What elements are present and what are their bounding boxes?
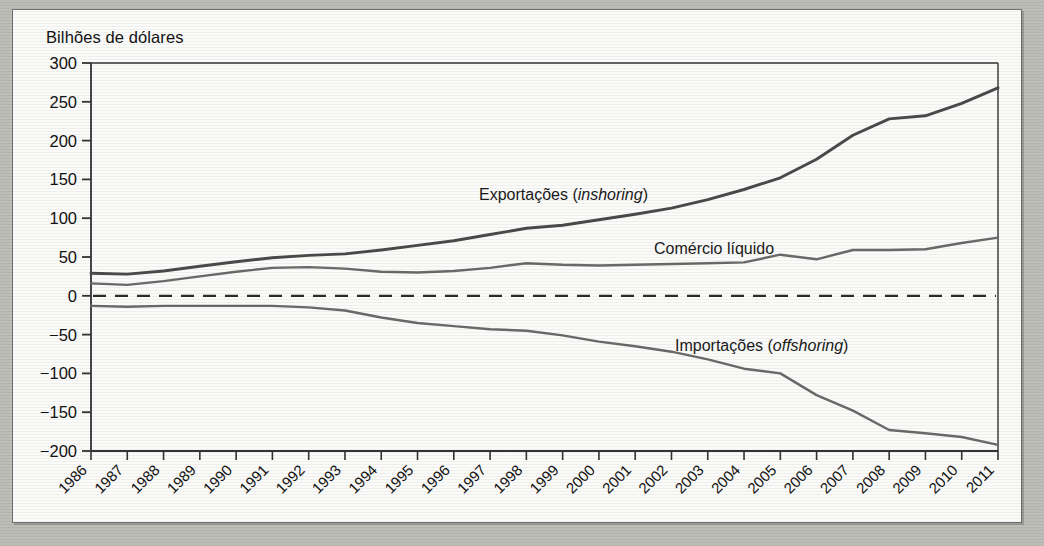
x-tick-label: 2001 bbox=[599, 461, 635, 497]
x-tick-label: 1996 bbox=[417, 461, 453, 497]
y-tick-label: 100 bbox=[49, 209, 77, 227]
x-tick-label: 1988 bbox=[127, 461, 163, 497]
x-tick-label: 2004 bbox=[708, 461, 744, 497]
y-tick-label: 150 bbox=[49, 170, 77, 188]
y-tick-label: −50 bbox=[49, 326, 77, 344]
figure-page: Bilhões de dólares 300250200150100500−50… bbox=[12, 9, 1022, 523]
x-tick-label: 2003 bbox=[671, 461, 707, 497]
line-chart: 300250200150100500−50−100−150−2001986198… bbox=[13, 10, 1021, 522]
series-line-com-rcio-l-quido bbox=[91, 238, 998, 285]
x-tick-label: 1998 bbox=[490, 461, 526, 497]
y-tick-label: −150 bbox=[40, 403, 77, 421]
y-tick-label: 200 bbox=[49, 132, 77, 150]
x-tick-label: 1991 bbox=[236, 461, 272, 497]
x-tick-label: 1986 bbox=[55, 461, 91, 497]
y-tick-label: 50 bbox=[59, 248, 77, 266]
x-tick-label: 2009 bbox=[889, 461, 925, 497]
x-tick-label: 2007 bbox=[816, 461, 852, 497]
x-tick-label: 2008 bbox=[853, 461, 889, 497]
x-tick-label: 1990 bbox=[200, 461, 236, 497]
x-tick-label: 2000 bbox=[562, 461, 598, 497]
y-tick-label: −200 bbox=[40, 442, 77, 460]
x-tick-label: 1989 bbox=[163, 461, 199, 497]
y-tick-label: 0 bbox=[68, 287, 77, 305]
series-label-imports: Importações (offshoring) bbox=[675, 337, 848, 354]
series-label-exports: Exportações (inshoring) bbox=[479, 186, 648, 203]
y-tick-label: 300 bbox=[49, 54, 77, 72]
y-tick-label: −100 bbox=[40, 364, 77, 382]
x-tick-label: 1997 bbox=[454, 461, 490, 497]
x-tick-label: 1994 bbox=[345, 461, 381, 497]
series-label-net-trade: Comércio líquido bbox=[654, 240, 774, 257]
y-tick-label: 250 bbox=[49, 93, 77, 111]
x-tick-label: 1987 bbox=[91, 461, 127, 497]
x-tick-label: 2011 bbox=[962, 461, 997, 496]
x-tick-label: 2010 bbox=[925, 461, 961, 497]
x-tick-label: 1992 bbox=[272, 461, 308, 497]
x-tick-label: 1999 bbox=[526, 461, 562, 497]
figure-frame: Bilhões de dólares 300250200150100500−50… bbox=[0, 0, 1044, 546]
chart-area: Bilhões de dólares 300250200150100500−50… bbox=[13, 10, 1021, 522]
x-tick-label: 2005 bbox=[744, 461, 780, 497]
x-tick-label: 1993 bbox=[308, 461, 344, 497]
series-line-importa-es-offshoring bbox=[91, 306, 998, 445]
x-tick-label: 1995 bbox=[381, 461, 417, 497]
series-line-exporta-es-inshoring bbox=[91, 88, 998, 274]
x-tick-label: 2002 bbox=[635, 461, 671, 497]
x-tick-label: 2006 bbox=[780, 461, 816, 497]
